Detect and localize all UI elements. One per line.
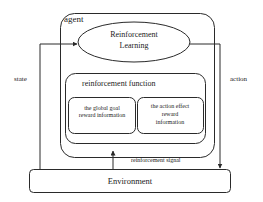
reinforcement-signal-label: reinforcement signal (131, 157, 180, 163)
state-label: state (14, 76, 27, 83)
reinforcement-function-title: reinforcement function (82, 80, 156, 88)
agent-label: agent (64, 15, 84, 24)
global-goal-line1: the global goal (84, 105, 120, 112)
global-goal-line2: reward information (79, 112, 125, 119)
action-effect-line1: the action effect (151, 103, 190, 110)
action-effect-line2: reward (162, 111, 179, 118)
rl-label-line1: Reinforcement (110, 31, 158, 39)
environment-label: Environment (108, 177, 152, 186)
action-effect-line3: information (156, 119, 184, 126)
rl-label-line2: Learning (120, 42, 149, 50)
action-label: action (230, 76, 247, 83)
state-edge (40, 44, 77, 169)
